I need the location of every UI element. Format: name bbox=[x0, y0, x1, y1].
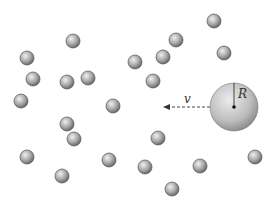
small-particle bbox=[66, 34, 80, 48]
small-particle bbox=[55, 169, 69, 183]
small-particle bbox=[26, 72, 40, 86]
small-particle bbox=[156, 50, 170, 64]
diagram-stage: v R bbox=[0, 0, 276, 208]
velocity-label: v bbox=[184, 92, 191, 106]
small-particle bbox=[138, 160, 152, 174]
small-particle bbox=[67, 132, 81, 146]
small-particle bbox=[151, 131, 165, 145]
small-particle bbox=[20, 51, 34, 65]
velocity-arrow-head bbox=[163, 104, 170, 110]
small-particle bbox=[81, 71, 95, 85]
small-particle bbox=[14, 94, 28, 108]
small-particle bbox=[169, 33, 183, 47]
small-particle bbox=[248, 150, 262, 164]
small-particle bbox=[106, 99, 120, 113]
small-particle bbox=[165, 182, 179, 196]
velocity-arrow: v bbox=[163, 92, 210, 110]
small-particle bbox=[217, 46, 231, 60]
small-particle bbox=[207, 14, 221, 28]
small-particle bbox=[193, 159, 207, 173]
small-particle bbox=[146, 74, 160, 88]
diagram-canvas: v R bbox=[0, 0, 276, 208]
small-particle bbox=[60, 75, 74, 89]
small-particle bbox=[128, 55, 142, 69]
small-particle bbox=[60, 117, 74, 131]
radius-label: R bbox=[237, 87, 247, 101]
small-particle bbox=[102, 153, 116, 167]
sphere-center-dot bbox=[232, 105, 236, 109]
small-particle bbox=[20, 150, 34, 164]
big-sphere: R bbox=[210, 83, 258, 131]
